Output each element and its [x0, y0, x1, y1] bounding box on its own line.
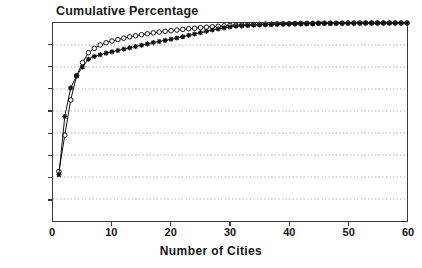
- x-tick-mark: [170, 222, 171, 226]
- x-tick-mark: [229, 222, 230, 226]
- data-series-layer: [53, 23, 407, 221]
- y-tick-mark: [48, 44, 52, 45]
- plot-area: [52, 22, 408, 222]
- series-open-circle: [57, 21, 410, 174]
- y-tick-mark: [48, 199, 52, 200]
- y-tick-mark: [48, 177, 52, 178]
- y-tick-mark: [48, 155, 52, 156]
- x-tick-label: 40: [283, 226, 295, 238]
- chart-title: Cumulative Percentage: [56, 4, 198, 18]
- x-axis-label: Number of Cities: [0, 244, 422, 258]
- y-tick-mark: [48, 88, 52, 89]
- x-tick-label: 60: [402, 226, 414, 238]
- y-tick-mark: [48, 133, 52, 134]
- y-tick-mark: [48, 110, 52, 111]
- y-tick-mark: [48, 66, 52, 67]
- x-tick-label: 0: [49, 226, 55, 238]
- chart-figure: Cumulative Percentage 10%20%30%40%50%60%…: [0, 0, 422, 268]
- x-tick-label: 10: [105, 226, 117, 238]
- x-tick-mark: [289, 222, 290, 226]
- x-tick-label: 20: [165, 226, 177, 238]
- x-tick-mark: [348, 222, 349, 226]
- series-star-plus: [56, 20, 409, 177]
- x-tick-mark: [111, 222, 112, 226]
- x-tick-label: 50: [343, 226, 355, 238]
- x-tick-label: 30: [224, 226, 236, 238]
